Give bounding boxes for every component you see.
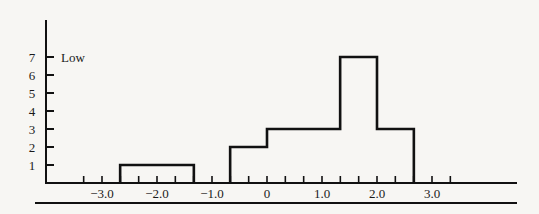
x-tick-label: −1.0 [200, 186, 224, 201]
y-tick-label: 5 [29, 86, 36, 101]
x-tick-label: 2.0 [369, 186, 385, 201]
x-tick-label: −2.0 [145, 186, 169, 201]
histogram-chart: 1234567 −3.0−2.0−1.001.02.03.0 Low [0, 0, 539, 214]
annotation-low: Low [61, 50, 85, 65]
y-tick-label: 3 [29, 122, 36, 137]
x-tick-label: 1.0 [314, 186, 330, 201]
x-tick-label: 3.0 [424, 186, 440, 201]
y-axis: 1234567 [29, 20, 54, 184]
y-tick-label: 2 [29, 140, 36, 155]
x-tick-label: 0 [264, 186, 271, 201]
y-tick-label: 4 [29, 104, 36, 119]
histogram-bars [120, 57, 414, 183]
x-tick-label: −3.0 [90, 186, 114, 201]
y-tick-label: 7 [29, 50, 36, 65]
y-tick-label: 6 [29, 68, 36, 83]
y-tick-label: 1 [29, 158, 36, 173]
histogram-bar-outline [230, 57, 414, 183]
x-axis: −3.0−2.0−1.001.02.03.0 [35, 176, 517, 203]
